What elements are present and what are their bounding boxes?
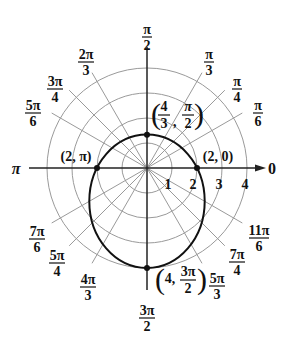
angle-numerator: 2π — [79, 47, 94, 62]
top-theta-den: 2 — [185, 116, 192, 131]
angle-label-5pi-over-6: 5π6 — [25, 98, 41, 129]
angle-label-2pi-over-3: 2π3 — [78, 47, 94, 78]
angle-denominator: 6 — [256, 239, 263, 254]
point-label-2-0: (2, 0) — [203, 149, 234, 165]
angle-denominator: 3 — [206, 63, 213, 78]
ray-7pi-4 — [147, 168, 225, 246]
angle-label-11pi-over-6: 11π6 — [249, 223, 270, 254]
angle-denominator: 3 — [214, 287, 221, 302]
angle-label-7pi-over-6: 7π6 — [29, 224, 45, 255]
tick-3: 3 — [216, 177, 223, 192]
angle-numerator: 5π — [210, 271, 225, 286]
top-r-num: 4 — [161, 99, 168, 114]
paren-right: ) — [197, 262, 207, 296]
angle-label-pi-over-6: π6 — [253, 98, 263, 129]
point-label-4-3pi-2: ( 4, 3π 2 ) — [155, 262, 207, 296]
comma: , — [173, 114, 177, 129]
angle-label-5pi-over-4: 5π4 — [49, 248, 65, 279]
ray-7pi-6 — [52, 168, 147, 223]
paren-right: ) — [194, 97, 204, 131]
radial-tick-labels: 1 2 3 4 — [165, 177, 249, 192]
angle-label-pi-over-2: π2 — [142, 22, 152, 53]
ray-5pi-4 — [69, 168, 147, 246]
angle-numerator: π — [143, 22, 151, 37]
paren-left: ( — [151, 97, 161, 131]
tick-1: 1 — [165, 177, 172, 192]
angle-label-4pi-over-3: 4π3 — [80, 272, 96, 303]
angle-numerator: 5π — [50, 248, 65, 263]
angle-numerator: 7π — [30, 224, 45, 239]
angle-denominator: 6 — [255, 114, 262, 129]
angle-numerator: π — [233, 74, 241, 89]
angle-denominator: 3 — [83, 63, 90, 78]
angle-numerator: 3π — [48, 74, 63, 89]
polar-graph: 1 2 3 4 0 π π2π3π4π62π33π45π67π65π44π33π… — [0, 0, 282, 340]
top-theta-num: π — [184, 99, 192, 114]
ray-2pi-3 — [92, 73, 147, 168]
angle-numerator: π — [205, 47, 213, 62]
bottom-theta-num: 3π — [181, 264, 196, 279]
angle-numerator: 3π — [140, 303, 155, 318]
angle-numerator: 4π — [81, 272, 96, 287]
ray-4pi-3 — [92, 168, 147, 263]
point-label-4-3-pi-2: ( 4 3 , π 2 ) — [151, 97, 204, 131]
arrow-right-icon — [255, 165, 266, 172]
angle-denominator: 6 — [34, 240, 41, 255]
bottom-theta-den: 2 — [185, 281, 192, 296]
paren-left: ( — [155, 262, 165, 296]
angle-denominator: 2 — [144, 319, 151, 334]
point-4-3-pi-2 — [144, 132, 150, 138]
tick-2: 2 — [190, 177, 197, 192]
angle-numerator: 5π — [26, 98, 41, 113]
tick-4: 4 — [242, 177, 249, 192]
angle-denominator: 3 — [85, 288, 92, 303]
top-r-den: 3 — [161, 116, 168, 131]
angle-label-3pi-over-4: 3π4 — [47, 74, 63, 105]
angle-label-pi-over-3: π3 — [204, 47, 214, 78]
angle-denominator: 4 — [52, 90, 59, 105]
angle-denominator: 6 — [30, 114, 37, 129]
point-4-3pi-2 — [144, 265, 150, 271]
angle-label-5pi-over-3: 5π3 — [209, 271, 225, 302]
angle-label-7pi-over-4: 7π4 — [229, 247, 245, 278]
angle-label-pi: π — [12, 160, 22, 177]
point-2-pi — [94, 165, 100, 171]
angle-label-0: 0 — [268, 160, 276, 177]
angle-denominator: 4 — [54, 264, 61, 279]
angle-denominator: 4 — [234, 90, 241, 105]
angle-denominator: 2 — [144, 38, 151, 53]
angle-denominator: 4 — [234, 263, 241, 278]
point-label-2-pi: (2, π) — [61, 149, 92, 165]
angle-numerator: 7π — [230, 247, 245, 262]
angle-numerator: π — [254, 98, 262, 113]
point-2-0 — [194, 165, 200, 171]
angle-label-3pi-over-2: 3π2 — [139, 303, 155, 334]
angle-label-pi-over-4: π4 — [232, 74, 242, 105]
bottom-r: 4, — [165, 271, 176, 286]
angle-numerator: 11π — [249, 223, 270, 238]
